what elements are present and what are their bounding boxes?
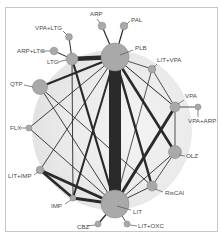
node-label-ltg: LTG [47,58,59,65]
node-label-lit: LIT [133,208,142,215]
node-qtp [33,80,48,95]
node-lit-oxc [124,221,130,227]
network-graph: PLBARPPALVPA+LTGARP+LTGLTGQTPLIT+VPAVPAV… [0,0,223,239]
leader-line-imp [65,200,71,204]
node-label-lit-vpa: LIT+VPA [157,56,182,63]
node-label-vpa-arp: VPA+ARP [188,117,216,124]
leader-line-arp [97,19,100,23]
leader-line-ltg [58,60,66,62]
node-label-cbz: CBZ [77,223,90,230]
leader-line-lit-oxc [130,225,137,226]
node-label-vpa: VPA [185,92,198,99]
node-vpa-arp [195,104,201,110]
node-flx [26,125,32,131]
node-pal [120,22,128,30]
node-plb [101,43,129,71]
leader-line-vpa-ltg [63,31,67,35]
node-label-vpa-ltg: VPA+LTG [35,24,62,31]
node-label-arp-ltg: ARP+LTG [17,47,45,54]
node-label-lit-imp: LIT+IMP [8,172,32,179]
node-label-qtp: QTP [10,80,23,87]
node-label-riscai: RisCAI [165,189,185,196]
node-arp-ltg [50,47,58,55]
node-arp [98,22,106,30]
node-olz [169,146,182,159]
node-cbz [95,221,101,227]
node-label-lit-oxc: LIT+OXC [138,222,164,229]
node-label-flx: FLX [10,124,21,131]
node-label-plb: PLB [135,44,147,51]
node-label-olz: OLZ [186,152,198,159]
leader-line-lit-imp [34,172,38,175]
node-label-pal: PAL [131,16,143,23]
leader-line-qtp [24,85,33,87]
node-ltg [66,53,78,65]
node-label-imp: IMP [51,202,62,209]
node-lit [101,190,129,218]
node-label-arp: ARP [90,10,103,17]
leader-line-pal [127,21,130,24]
